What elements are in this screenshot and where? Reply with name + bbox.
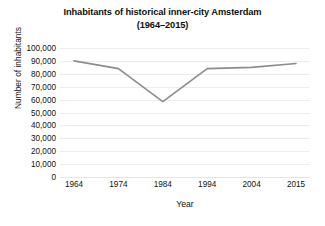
y-tick-label: 40,000: [31, 121, 56, 130]
y-tick-label: 100,000: [26, 44, 56, 53]
gridline: [60, 177, 310, 178]
series-line-inhabitants: [60, 48, 310, 177]
x-tick-label: 1994: [198, 180, 216, 189]
y-tick-label: 50,000: [31, 108, 56, 117]
y-tick-label: 20,000: [31, 147, 56, 156]
x-tick-label: 1964: [65, 180, 83, 189]
y-tick-label: 10,000: [31, 160, 56, 169]
x-tick-label: 2015: [287, 180, 305, 189]
y-tick-label: 0: [51, 173, 56, 182]
y-tick-label: 80,000: [31, 69, 56, 78]
line-chart: Inhabitants of historical inner-city Ams…: [0, 0, 325, 226]
y-axis-tick-labels: 010,00020,00030,00040,00050,00060,00070,…: [0, 0, 56, 226]
y-tick-label: 60,000: [31, 95, 56, 104]
x-tick-label: 1974: [109, 180, 127, 189]
plot-area: [60, 48, 310, 177]
y-tick-label: 90,000: [31, 56, 56, 65]
y-tick-label: 30,000: [31, 134, 56, 143]
y-tick-label: 70,000: [31, 82, 56, 91]
x-tick-label: 1984: [154, 180, 172, 189]
x-axis-tick-labels: 196419741984199420042015: [60, 180, 310, 194]
x-tick-label: 2004: [242, 180, 260, 189]
x-axis-title: Year: [60, 199, 310, 209]
